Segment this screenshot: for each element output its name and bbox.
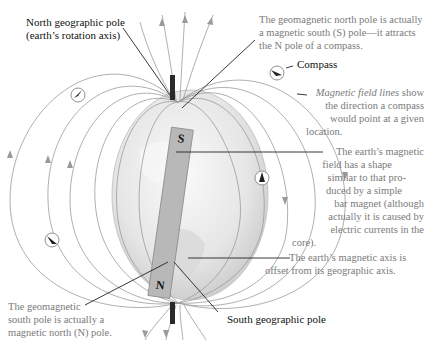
north-geographic-pole-label: North geographic pole (earth’s rotation … — [26, 16, 125, 42]
geomagnetic-south-label: The geomagnetic south pole is actually a… — [8, 300, 112, 339]
earth-globe — [112, 90, 268, 300]
field-lines-label: Magnetic field lines show the direction … — [300, 86, 424, 138]
south-geographic-pole-label: South geographic pole — [227, 313, 326, 326]
field-shape-label: The earth’s magnetic field has a shape s… — [292, 145, 424, 249]
compass-label: Compass — [297, 58, 337, 71]
geomagnetic-north-label: The geomagnetic north pole is actually a… — [259, 13, 423, 52]
axis-offset-label: The earth’s magnetic axis is offset from… — [265, 251, 406, 277]
